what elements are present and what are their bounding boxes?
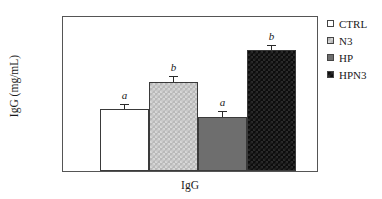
bar-hp[interactable]	[198, 117, 247, 171]
legend-item-n3[interactable]: N3	[327, 33, 382, 48]
bar-slot: a	[198, 17, 247, 171]
legend-item-hpn3[interactable]: HPN3	[327, 67, 382, 82]
legend: CTRLN3HPHPN3	[327, 16, 382, 84]
x-axis-title: IgG	[62, 179, 318, 191]
legend-label: N3	[339, 35, 352, 47]
error-bar	[169, 76, 178, 82]
significance-letter: b	[171, 61, 177, 73]
legend-swatch-icon	[327, 20, 334, 27]
bar-slot: b	[247, 17, 296, 171]
legend-swatch-icon	[327, 71, 334, 78]
legend-label: HP	[339, 52, 353, 64]
error-bar	[120, 104, 129, 109]
chart-figure: 101520253035 IgG (mg/mL) abab IgG CTRLN3…	[0, 0, 382, 199]
bar-group: abab	[63, 17, 317, 171]
error-bar	[218, 111, 227, 117]
legend-swatch-icon	[327, 54, 334, 61]
significance-letter: a	[220, 96, 226, 108]
y-axis-title: IgG (mg/mL)	[8, 26, 20, 146]
bar-slot: a	[100, 17, 149, 171]
legend-item-hp[interactable]: HP	[327, 50, 382, 65]
legend-item-ctrl[interactable]: CTRL	[327, 16, 382, 31]
bar-hpn3[interactable]	[247, 50, 296, 171]
bar-n3[interactable]	[149, 82, 198, 171]
legend-swatch-icon	[327, 37, 334, 44]
significance-letter: b	[269, 30, 275, 42]
bar-ctrl[interactable]	[100, 109, 149, 171]
error-bar	[267, 45, 276, 50]
bar-slot: b	[149, 17, 198, 171]
legend-label: HPN3	[339, 69, 367, 81]
significance-letter: a	[122, 89, 128, 101]
legend-label: CTRL	[339, 18, 367, 30]
